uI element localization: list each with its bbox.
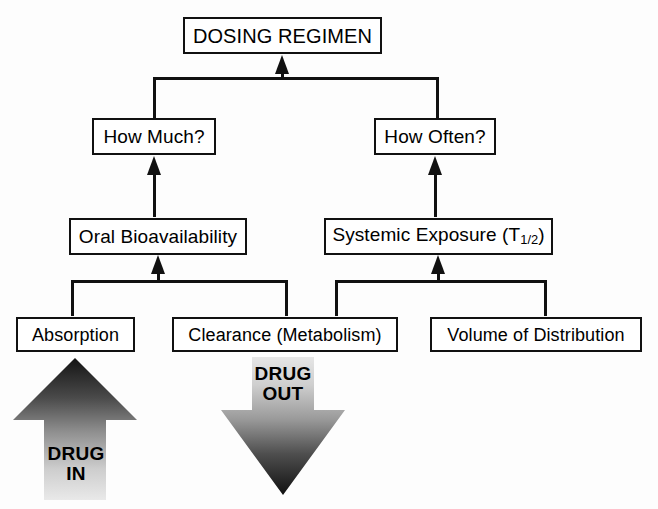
node-absorption-label: Absorption: [32, 326, 119, 344]
node-how-much-label: How Much?: [103, 127, 204, 146]
node-systemic-exposure-label: Systemic Exposure (T1/2): [332, 225, 544, 247]
node-dosing-regimen-label: DOSING REGIMEN: [193, 26, 372, 46]
node-clearance[interactable]: Clearance (Metabolism): [172, 317, 398, 352]
node-systemic-exposure-prefix: Systemic Exposure (T: [332, 224, 520, 245]
node-absorption[interactable]: Absorption: [16, 317, 135, 352]
drug-in-label: DRUG IN: [30, 444, 122, 484]
node-how-much[interactable]: How Much?: [92, 118, 216, 155]
diagram-canvas: DOSING REGIMEN How Much? How Often? Oral…: [0, 0, 658, 509]
node-how-often[interactable]: How Often?: [374, 118, 496, 155]
arrowhead-to-dosing: [275, 55, 289, 74]
arrowhead-to-oral-bio: [151, 255, 165, 274]
node-systemic-exposure[interactable]: Systemic Exposure (T1/2): [324, 218, 553, 255]
node-clearance-label: Clearance (Metabolism): [188, 326, 381, 344]
node-how-often-label: How Often?: [384, 127, 485, 146]
arrowhead-to-how-much: [147, 156, 161, 175]
arrowhead-to-systemic: [431, 255, 445, 274]
node-volume-of-distribution[interactable]: Volume of Distribution: [430, 317, 642, 352]
node-dosing-regimen[interactable]: DOSING REGIMEN: [183, 17, 382, 54]
node-systemic-exposure-subscript: 1/2: [520, 233, 538, 248]
arrowhead-to-how-often: [428, 156, 442, 175]
node-oral-bioavailability-label: Oral Bioavailability: [79, 227, 237, 246]
drug-out-label: DRUG OUT: [240, 364, 326, 404]
node-volume-of-distribution-label: Volume of Distribution: [447, 326, 624, 344]
node-oral-bioavailability[interactable]: Oral Bioavailability: [69, 218, 247, 255]
node-systemic-exposure-suffix: ): [538, 224, 544, 245]
